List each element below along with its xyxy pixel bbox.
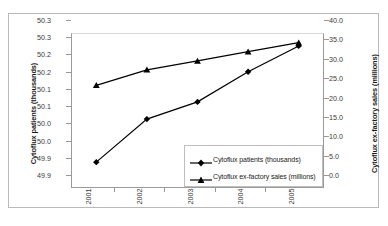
y-axis-left-tick-mark bbox=[66, 37, 71, 38]
y-axis-left-title: Cytoflux patients (thousands) bbox=[29, 39, 38, 189]
legend-item-sales: Cytoflux ex-factory sales (millions) bbox=[189, 169, 316, 183]
y-axis-right-tick-label: 30.0 bbox=[329, 54, 363, 63]
y-axis-right-tick-mark bbox=[324, 78, 329, 79]
legend-label-patients: Cytoflux patients (thousands) bbox=[213, 156, 301, 163]
y-axis-right-tick-mark bbox=[324, 175, 329, 176]
y-axis-right-tick-label: 15.0 bbox=[329, 112, 363, 121]
y-axis-left-tick-label: 50.0 bbox=[17, 119, 51, 128]
y-axis-left-tick-mark bbox=[66, 54, 71, 55]
y-axis-left-tick-label: 50.0 bbox=[17, 136, 51, 145]
y-axis-right-tick-mark bbox=[324, 20, 329, 21]
x-axis-tick-mark bbox=[114, 188, 115, 192]
y-axis-left-tick-label: 50.3 bbox=[17, 16, 51, 25]
y-axis-right-tick-mark bbox=[324, 39, 329, 40]
y-axis-left-tick-mark bbox=[66, 123, 71, 124]
x-axis-tick-label: 2001 bbox=[84, 177, 93, 217]
y-axis-left-tick-label: 50.3 bbox=[17, 33, 51, 42]
y-axis-left-tick-mark bbox=[66, 175, 71, 176]
chart-legend: Cytoflux patients (thousands) Cytoflux e… bbox=[184, 145, 323, 187]
x-axis-tick-label: 2002 bbox=[134, 177, 143, 217]
y-axis-right-tick-label: 5.0 bbox=[329, 151, 363, 160]
y-axis-right-tick-label: 25.0 bbox=[329, 74, 363, 83]
y-axis-right-tick-label: 0.0 bbox=[329, 171, 363, 180]
legend-label-sales: Cytoflux ex-factory sales (millions) bbox=[213, 173, 316, 180]
y-axis-left-tick-label: 50.2 bbox=[17, 50, 51, 59]
y-axis-left-tick-label: 50.1 bbox=[17, 84, 51, 93]
y-axis-left-tick-label: 49.9 bbox=[17, 171, 51, 180]
legend-item-patients: Cytoflux patients (thousands) bbox=[189, 152, 301, 166]
y-axis-right-tick-label: 20.0 bbox=[329, 93, 363, 102]
y-axis-left-tick-mark bbox=[66, 20, 71, 21]
x-axis-tick-mark bbox=[215, 188, 216, 192]
y-axis-left-tick-label: 49.9 bbox=[17, 153, 51, 162]
triangle-marker-icon bbox=[189, 171, 213, 181]
y-axis-left-tick-mark bbox=[66, 89, 71, 90]
x-axis-tick-mark bbox=[265, 188, 266, 192]
y-axis-right-title: Cytoflux ex-factory sales (millions) bbox=[370, 39, 379, 189]
y-axis-left-tick-mark bbox=[66, 106, 71, 107]
y-axis-right-tick-mark bbox=[324, 59, 329, 60]
y-axis-right-tick-label: 10.0 bbox=[329, 132, 363, 141]
y-axis-right-tick-label: 40.0 bbox=[329, 16, 363, 25]
y-axis-right-tick-mark bbox=[324, 156, 329, 157]
y-axis-left-tick-mark bbox=[66, 72, 71, 73]
y-axis-right-tick-mark bbox=[324, 117, 329, 118]
chart-frame: Cytoflux patients (thousands) Cytoflux e… bbox=[8, 13, 379, 208]
y-axis-right-tick-label: 35.0 bbox=[329, 35, 363, 44]
y-axis-left-tick-mark bbox=[66, 141, 71, 142]
y-axis-left-tick-mark bbox=[66, 158, 71, 159]
y-axis-left-tick-label: 50.2 bbox=[17, 67, 51, 76]
diamond-marker-icon bbox=[189, 154, 213, 164]
y-axis-right-tick-mark bbox=[324, 98, 329, 99]
y-axis-right-tick-mark bbox=[324, 136, 329, 137]
x-axis-tick-mark bbox=[164, 188, 165, 192]
y-axis-left-tick-label: 50.1 bbox=[17, 102, 51, 111]
